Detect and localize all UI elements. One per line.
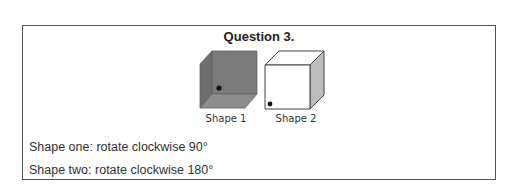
question-title: Question 3. bbox=[23, 29, 495, 44]
shape-2-cube-icon bbox=[264, 50, 326, 110]
shape-1-label: Shape 1 bbox=[191, 113, 261, 124]
shape-2-label: Shape 2 bbox=[261, 113, 331, 124]
instruction-shape-two: Shape two: rotate clockwise 180° bbox=[29, 163, 213, 177]
instruction-shape-one: Shape one: rotate clockwise 90° bbox=[29, 140, 208, 154]
shape-1-cube-icon bbox=[199, 50, 259, 110]
question-box: Question 3. Shape 1 Shape 2 Shape one: r… bbox=[22, 25, 496, 180]
